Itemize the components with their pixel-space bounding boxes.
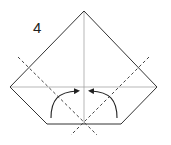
valley-fold-right — [71, 57, 149, 135]
fold-arrow-left-icon — [51, 91, 77, 118]
fold-diagram-canvas — [0, 0, 171, 145]
fold-arrow-right-icon — [91, 91, 117, 118]
pentagon-paper-outline — [10, 11, 157, 124]
valley-fold-left — [18, 57, 97, 135]
origami-diagram: 4 — [0, 0, 171, 145]
